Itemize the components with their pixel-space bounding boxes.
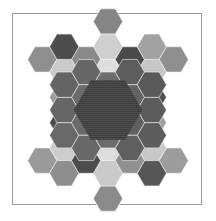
hex-tile-top-tip [93,9,122,34]
hexagon-snowflake-canvas [0,0,216,221]
hex-tile-bottom-tip [93,186,122,211]
figure-root [0,0,216,221]
